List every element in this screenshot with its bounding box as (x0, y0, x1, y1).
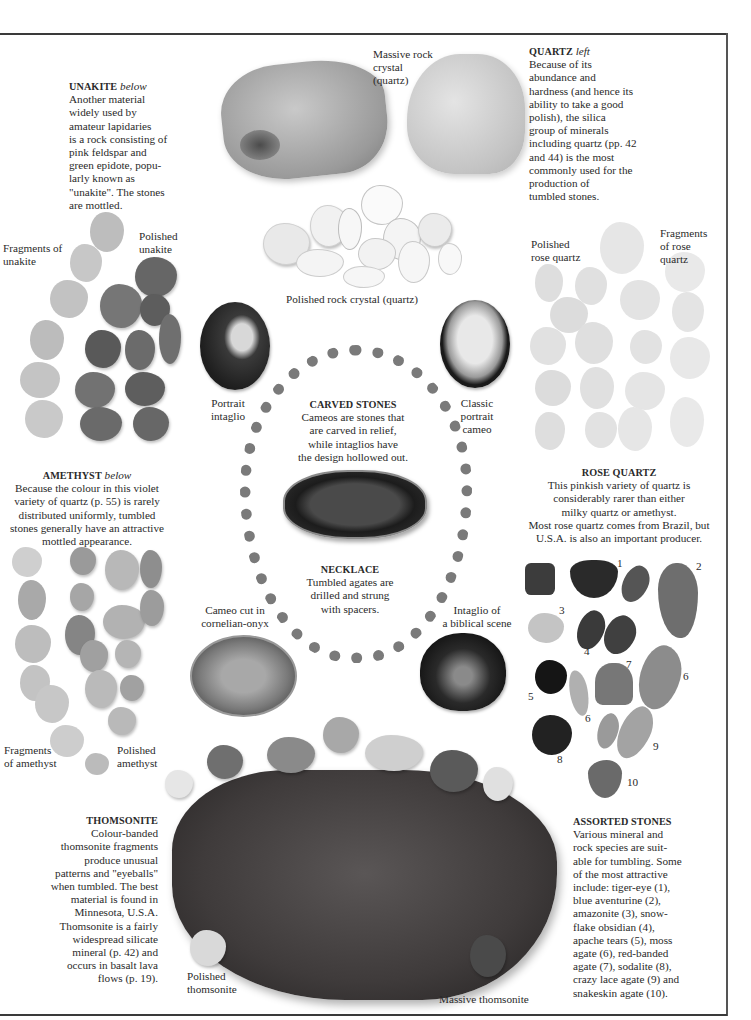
amethyst-stones-image (10, 545, 170, 775)
unakite-caption: UNAKITE below Another material widely us… (69, 80, 189, 212)
carved-stones-line: while intaglios have (283, 438, 423, 451)
amethyst-line: distributed uniformly, tumbled (2, 509, 172, 522)
assorted-stones-line: crazy lace agate (9) and (573, 973, 703, 986)
unakite-line: amateur lapidaries (69, 120, 189, 133)
unakite-line: are mottled. (69, 199, 189, 212)
label-line: Fragments of (3, 242, 62, 255)
biblical-intaglio-image (420, 633, 506, 711)
label-line: (quartz) (373, 74, 433, 87)
label-line: Polished (139, 230, 178, 243)
quartz-line: and 44) is the most (529, 151, 654, 164)
unakite-line: green epidote, popu- (69, 159, 189, 172)
thomsonite-line: Minnesota, U.S.A. (30, 906, 158, 919)
quartz-line: ability to take a good (529, 98, 654, 111)
quartz-line: including quartz (pp. 42 (529, 137, 654, 150)
stone-number-9: 9 (653, 740, 659, 753)
carved-stones-line: are carved in relief, (283, 424, 423, 437)
classic-portrait-cameo-image (440, 300, 510, 388)
rose-quartz-line: Most rose quartz comes from Brazil, but (514, 519, 724, 532)
carved-stones-line: Cameos are stones that (283, 411, 423, 424)
label-line: Intaglio of (432, 604, 522, 617)
portrait-intaglio-label: Portrait intaglio (198, 397, 258, 423)
unakite-subheading: below (120, 80, 147, 92)
quartz-line: abundance and (529, 71, 654, 84)
assorted-stones-line: able for tumbling. Some (573, 855, 703, 868)
label-line: unakite (139, 243, 178, 256)
thomsonite-caption: THOMSONITE Colour-banded thomsonite frag… (30, 814, 158, 986)
quartz-line: polish), the silica (529, 111, 654, 124)
stone-number-6a: 6 (683, 670, 689, 683)
label-line: Polished (187, 970, 237, 983)
fragments-unakite-label: Fragments of unakite (3, 242, 62, 268)
label-line: amethyst (117, 757, 157, 770)
label-line: Fragments (660, 227, 707, 240)
label-line: Massive rock (373, 48, 433, 61)
polished-thomsonite-label: Polished thomsonite (187, 970, 237, 996)
assorted-stones-line: flake obsidian (4), (573, 921, 703, 934)
polished-unakite-label: Polished unakite (139, 230, 178, 256)
rose-quartz-heading: ROSE QUARTZ (582, 467, 657, 478)
polished-rock-crystal-image (258, 183, 468, 288)
stone-number-5: 5 (528, 690, 534, 703)
thomsonite-line: mineral (p. 42) and (30, 946, 158, 959)
assorted-stones-line: agate (6), red-banded (573, 947, 703, 960)
stone-number-6b: 6 (585, 712, 591, 725)
stone-number-3: 3 (559, 604, 565, 617)
thomsonite-line: Colour-banded (30, 827, 158, 840)
quartz-line: Because of its (529, 58, 654, 71)
unakite-line: widely used by (69, 106, 189, 119)
stone-number-7: 7 (626, 658, 632, 671)
stone-number-2: 2 (696, 560, 702, 573)
carved-seal-image (283, 470, 427, 539)
label-line: quartz (660, 253, 707, 266)
polished-thomsonite-stones-image (165, 715, 525, 795)
stone-number-8: 8 (557, 753, 563, 766)
quartz-line: tumbled stones. (529, 190, 654, 203)
rose-quartz-line: considerably rarer than either (514, 492, 724, 505)
massive-rock-crystal-label: Massive rock crystal (quartz) (373, 48, 433, 87)
label-line: intaglio (198, 410, 258, 423)
necklace-line: drilled and strung (290, 589, 410, 602)
classic-portrait-cameo-label: Classic portrait cameo (447, 397, 507, 436)
polished-amethyst-label: Polished amethyst (117, 744, 157, 770)
assorted-stones-line: rock species are suit- (573, 841, 703, 854)
cameo-cornelian-onyx-label: Cameo cut in cornelian-onyx (190, 604, 280, 630)
polished-rose-quartz-label: Polished rose quartz (531, 238, 580, 264)
amethyst-line: variety of quartz (p. 55) is rarely (2, 495, 172, 508)
quartz-line: group of minerals (529, 124, 654, 137)
quartz-subheading: left (576, 45, 590, 57)
bottom-rule (0, 1014, 727, 1016)
assorted-stones-heading: ASSORTED STONES (573, 816, 672, 827)
stone-number-1: 1 (617, 557, 623, 570)
label-line: Portrait (198, 397, 258, 410)
necklace-caption: NECKLACE Tumbled agates are drilled and … (290, 563, 410, 616)
thomsonite-line: thomsonite fragments (30, 840, 158, 853)
label-line: a biblical scene (432, 617, 522, 630)
label-line: portrait (447, 410, 507, 423)
carved-stones-heading: CARVED STONES (309, 399, 396, 410)
unakite-line: Another material (69, 93, 189, 106)
amethyst-heading: AMETHYST (43, 470, 102, 481)
label-line: cameo (447, 423, 507, 436)
thomsonite-line: when tumbled. The best (30, 880, 158, 893)
assorted-stones-line: amazonite (3), snow- (573, 907, 703, 920)
label-line: of rose (660, 240, 707, 253)
assorted-stones-line: apache tears (5), moss (573, 934, 703, 947)
unakite-heading: UNAKITE (69, 81, 117, 92)
quartz-caption: QUARTZ left Because of its abundance and… (529, 45, 654, 203)
assorted-stones-line: of the most attractive (573, 868, 703, 881)
assorted-stones-line: blue aventurine (2), (573, 894, 703, 907)
intaglio-biblical-scene-label: Intaglio of a biblical scene (432, 604, 522, 630)
label-line: of amethyst (4, 757, 57, 770)
fragments-amethyst-label: Fragments of amethyst (4, 744, 57, 770)
label-line: unakite (3, 255, 62, 268)
assorted-stones-caption: ASSORTED STONES Various mineral and rock… (573, 815, 703, 1000)
thomsonite-line: Thomsonite is a fairly (30, 920, 158, 933)
label-line: Polished (117, 744, 157, 757)
quartz-line: production of (529, 177, 654, 190)
amethyst-line: stones generally have an attractive (2, 522, 172, 535)
assorted-stones-line: Various mineral and (573, 828, 703, 841)
massive-thomsonite-label: Massive thomsonite (439, 993, 529, 1006)
thomsonite-line: material is found in (30, 893, 158, 906)
assorted-stones-line: include: tiger-eye (1), (573, 881, 703, 894)
